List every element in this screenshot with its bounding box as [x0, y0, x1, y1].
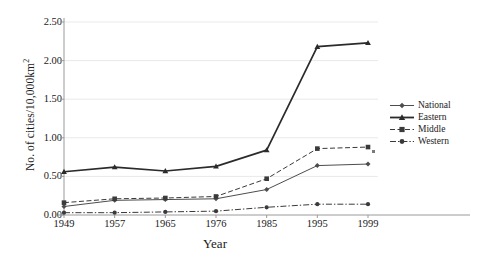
x-axis-tick-label: 1949: [39, 218, 89, 229]
data-point-marker: [265, 205, 269, 209]
data-point-marker: [366, 202, 370, 206]
x-axis-tick-label: 1995: [292, 218, 342, 229]
data-point-marker: [264, 187, 269, 192]
series-western: [62, 202, 370, 215]
x-axis-tick-label: 1965: [140, 218, 190, 229]
data-point-marker: [214, 209, 218, 213]
data-series-layer: [61, 40, 371, 215]
data-point-marker: [366, 145, 371, 150]
legend-label-national: National: [415, 100, 451, 111]
series-national: [62, 162, 371, 209]
legend-item-eastern: Eastern: [389, 112, 477, 123]
data-point-marker: [366, 162, 371, 167]
legend-item-western: Western: [389, 136, 477, 147]
x-axis-tick-labels: 1949195719651976198519951999: [60, 218, 370, 238]
x-axis-tick-label: 1985: [242, 218, 292, 229]
data-point-marker: [163, 196, 168, 201]
data-point-marker: [315, 146, 320, 151]
series-middle: [62, 145, 371, 205]
legend-label-eastern: Eastern: [415, 112, 447, 123]
data-point-marker: [315, 163, 320, 168]
legend-swatch-middle: [389, 124, 415, 135]
x-axis-title: Year: [60, 236, 370, 252]
x-axis-tick-label: 1976: [191, 218, 241, 229]
legend-label-middle: Middle: [415, 124, 445, 135]
data-point-marker: [214, 194, 219, 199]
legend-label-western: Western: [415, 136, 449, 147]
legend-swatch-western: [389, 136, 415, 147]
data-point-marker: [264, 176, 269, 181]
series-line: [64, 43, 368, 172]
data-point-marker: [112, 196, 117, 201]
series-eastern: [61, 40, 371, 174]
legend-item-national: National: [389, 100, 477, 111]
chart-figure: No. of cities/10,000km2 0.000.501.001.50…: [0, 0, 477, 267]
data-point-marker: [163, 210, 167, 214]
legend-item-middle: Middle: [389, 124, 477, 135]
data-point-marker: [315, 202, 319, 206]
data-point-marker: [399, 103, 405, 109]
legend-swatch-national: [389, 100, 415, 111]
stray-mark: [372, 150, 375, 153]
data-point-marker: [62, 200, 67, 205]
data-point-marker: [399, 127, 404, 132]
legend-swatch-eastern: [389, 112, 415, 123]
x-axis-tick-label: 1957: [90, 218, 140, 229]
data-point-marker: [264, 147, 270, 152]
data-point-marker: [400, 139, 405, 144]
chart-legend: National Eastern Middle Western: [389, 100, 477, 148]
data-point-marker: [62, 211, 66, 215]
data-point-marker: [113, 211, 117, 215]
x-axis-tick-label: 1999: [343, 218, 393, 229]
